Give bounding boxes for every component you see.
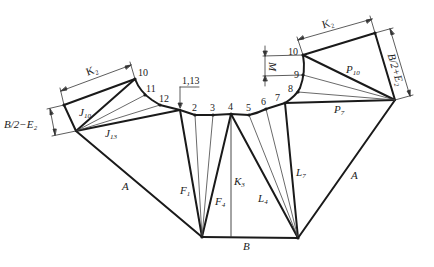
label-p10: P10 <box>346 64 360 77</box>
seam-label: 1,13 <box>182 76 200 86</box>
label-l7: L7 <box>296 167 306 180</box>
point-label-7: 7 <box>275 93 280 103</box>
label-f1: F1 <box>180 185 190 198</box>
point-label-5: 5 <box>246 103 251 113</box>
label-b: B <box>243 241 250 252</box>
diagram-lines <box>0 0 434 267</box>
label-l4: L4 <box>258 193 268 206</box>
point-label-3: 3 <box>210 103 215 113</box>
label-k3: K3 <box>234 176 245 189</box>
label-a-right: A <box>351 170 358 181</box>
line-f4 <box>202 114 231 237</box>
point-label-4: 4 <box>228 102 233 112</box>
dim-m: M <box>267 62 278 71</box>
point-label-12: 12 <box>159 94 169 104</box>
line-a-right <box>298 100 395 238</box>
point-label-6: 6 <box>261 97 266 107</box>
label-j10: J10 <box>79 107 91 120</box>
label-p7: P7 <box>334 104 344 117</box>
point-label-8: 8 <box>288 84 293 94</box>
line-b <box>202 237 298 238</box>
label-a-left: A <box>122 181 129 192</box>
line-j13 <box>76 110 180 131</box>
point-label-9: 9 <box>294 70 299 80</box>
development-diagram: 10 11 12 2 3 4 5 6 7 8 9 10 1,13 K₂ B/2−… <box>0 0 434 267</box>
point-label-11: 11 <box>146 84 156 94</box>
point-label-2: 2 <box>192 103 197 113</box>
dim-b2-minus-e2: B/2−E₂ <box>4 119 37 130</box>
label-f4: F4 <box>215 196 225 209</box>
left-flange-outline <box>64 79 135 131</box>
point-label-10-left: 10 <box>138 68 148 78</box>
point-label-10-right: 10 <box>288 47 298 57</box>
label-j13: J13 <box>105 128 117 141</box>
